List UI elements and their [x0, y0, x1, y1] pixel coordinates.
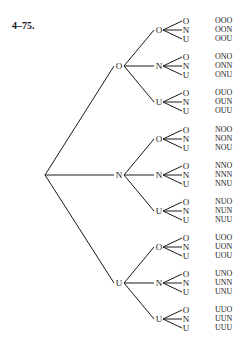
branch-line — [163, 30, 182, 39]
branch-line — [163, 247, 182, 256]
outcome-onn: ONN — [215, 62, 232, 70]
branch-line — [124, 66, 154, 102]
branch-line — [163, 319, 182, 328]
branch-line — [163, 57, 182, 66]
branch-line — [163, 202, 182, 211]
branch-line — [163, 238, 182, 247]
branch-line — [163, 66, 182, 75]
branch-line — [163, 211, 182, 220]
branch-line — [124, 30, 154, 66]
leaf-u: U — [183, 71, 190, 80]
branch-line — [45, 175, 114, 283]
outcome-nuu: NUU — [215, 216, 232, 224]
outcome-uuu: UUU — [215, 324, 232, 332]
leaf-u: U — [183, 35, 190, 44]
outcome-uno: UNO — [215, 270, 232, 278]
node-level1-o: O — [116, 62, 123, 71]
branch-line — [163, 310, 182, 319]
node-level2-o: O — [156, 135, 163, 144]
outcome-uoo: UOO — [215, 234, 232, 242]
outcome-oou: OOU — [215, 35, 232, 43]
outcome-unn: UNN — [215, 279, 232, 287]
leaf-u: U — [183, 144, 190, 153]
tree-branches — [0, 0, 248, 351]
outcome-ouo: OUO — [215, 89, 232, 97]
node-level2-n: N — [156, 279, 163, 288]
outcome-nnu: NNU — [215, 180, 232, 188]
node-level2-u: U — [156, 207, 163, 216]
branch-line — [163, 130, 182, 139]
branch-line — [163, 283, 182, 292]
outcome-oon: OON — [215, 26, 232, 34]
branch-line — [124, 247, 154, 283]
node-level2-n: N — [156, 171, 163, 180]
branch-line — [163, 102, 182, 111]
outcome-ono: ONO — [215, 53, 232, 61]
branch-line — [45, 66, 114, 175]
leaf-u: U — [183, 180, 190, 189]
branch-line — [163, 175, 182, 184]
outcome-unu: UNU — [215, 288, 232, 296]
outcome-onu: ONU — [215, 71, 232, 79]
problem-number: 4–75. — [12, 20, 35, 31]
outcome-nun: NUN — [215, 207, 232, 215]
outcome-nuo: NUO — [215, 198, 232, 206]
outcome-uou: UOU — [215, 252, 232, 260]
outcome-ooo: OOO — [215, 17, 232, 25]
outcome-ouu: OUU — [215, 107, 232, 115]
node-level1-n: N — [116, 171, 123, 180]
tree-diagram: 4–75. ONUOONUNONUUONUOONUNONUUONUOONUNON… — [0, 0, 248, 351]
node-level2-u: U — [156, 315, 163, 324]
node-level2-o: O — [156, 26, 163, 35]
outcome-nno: NNO — [215, 162, 232, 170]
node-level2-o: O — [156, 243, 163, 252]
branch-line — [124, 175, 154, 211]
node-level2-n: N — [156, 62, 163, 71]
leaf-u: U — [183, 216, 190, 225]
branch-line — [163, 93, 182, 102]
outcome-uuo: UUO — [215, 306, 232, 314]
branch-line — [163, 21, 182, 30]
outcome-noo: NOO — [215, 126, 232, 134]
branch-line — [163, 139, 182, 148]
branch-line — [163, 166, 182, 175]
leaf-u: U — [183, 288, 190, 297]
branch-line — [163, 274, 182, 283]
leaf-u: U — [183, 107, 190, 116]
outcome-non: NON — [215, 135, 232, 143]
branch-line — [124, 283, 154, 319]
outcome-oun: OUN — [215, 98, 232, 106]
outcome-nnn: NNN — [215, 171, 232, 179]
outcome-nou: NOU — [215, 144, 232, 152]
branch-line — [124, 139, 154, 175]
leaf-u: U — [183, 252, 190, 261]
node-level2-u: U — [156, 98, 163, 107]
outcome-uon: UON — [215, 243, 232, 251]
node-level1-u: U — [116, 279, 123, 288]
outcome-uun: UUN — [215, 315, 232, 323]
leaf-u: U — [183, 324, 190, 333]
